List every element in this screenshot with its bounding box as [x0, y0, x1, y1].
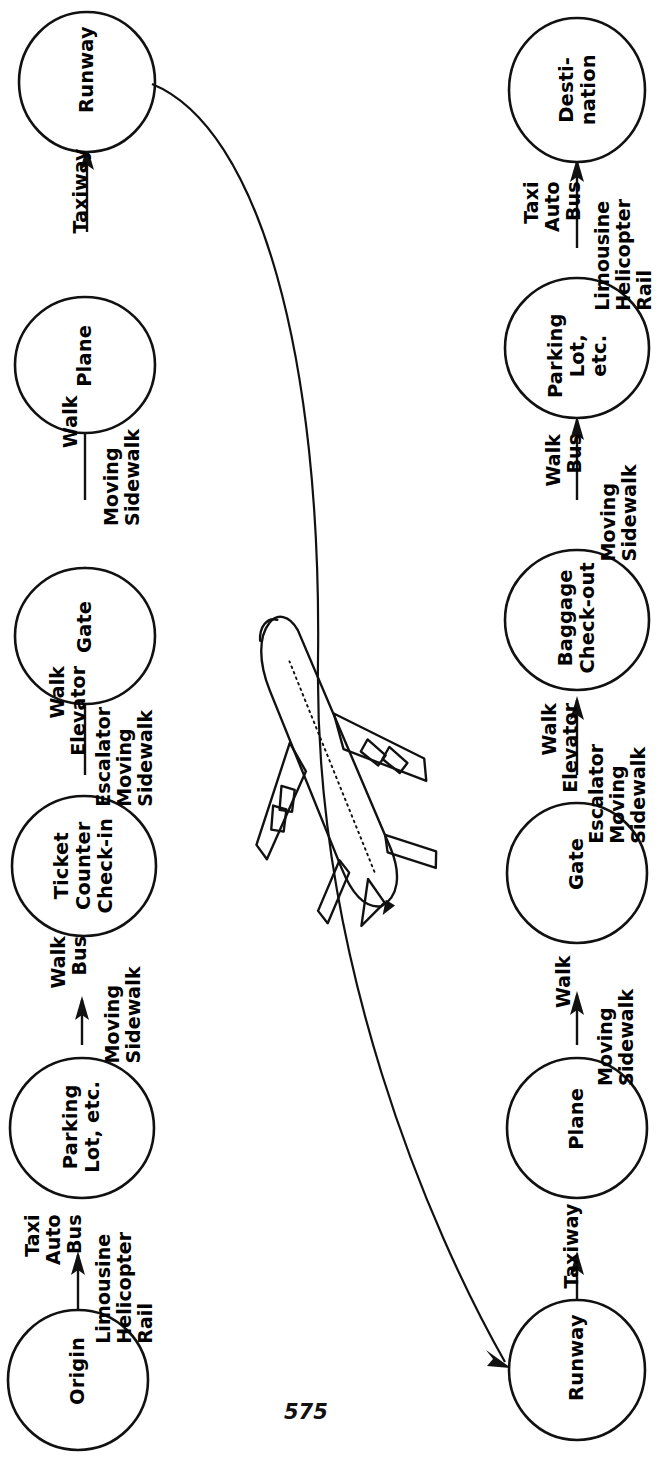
- edge-label-gate-plane-b: Moving Sidewalk: [101, 406, 143, 526]
- edge-label-gate-baggage-a: Walk Elevator: [539, 703, 581, 823]
- node-label-origin: Origin: [67, 1331, 89, 1411]
- edge-label-baggage-parking-b: Moving Sidewalk: [598, 436, 640, 561]
- node-label-baggage-checkout: Baggage Check-out: [555, 553, 599, 683]
- node-label-parking-lot-dep: Parking Lot, etc.: [60, 1062, 104, 1192]
- flight-curve-path: [152, 84, 505, 1362]
- edge-label-parking-ticket-b: Moving Sidewalk: [102, 938, 144, 1063]
- page-number: 575: [284, 1400, 328, 1424]
- edge-label-gate-baggage-b: Escalator Moving Sidewalk: [586, 719, 649, 844]
- edge-label-taxiway-arr: Taxiway: [561, 1203, 582, 1313]
- edge-label-origin-parking-a: Taxi Auto Bus: [22, 1214, 85, 1324]
- airplane-illustration: [180, 586, 473, 951]
- node-label-plane-arr: Plane: [566, 1079, 588, 1159]
- edge-label-taxiway-dep: Taxiway: [70, 148, 91, 258]
- edge-label-origin-parking-b: Limousine Helicopter Rail: [93, 1209, 156, 1344]
- edge-label-ticket-gate-a: Walk Elevator: [47, 666, 89, 786]
- edge-label-parking-destination-b: Limousine Helicopter Rail: [592, 176, 655, 311]
- node-label-ticket-counter: Ticket Counter Check-in: [51, 801, 116, 931]
- edge-label-plane-gate-b: Moving Sidewalk: [595, 966, 637, 1086]
- edge-label-plane-gate-a: Walk: [553, 955, 574, 1065]
- node-label-plane-dep: Plane: [74, 316, 96, 396]
- edge-label-parking-destination-a: Taxi Auto Bus: [521, 181, 584, 291]
- node-label-gate-dep: Gate: [74, 587, 96, 667]
- node-label-destination: Desti- nation: [556, 46, 600, 134]
- arrowhead-runway-arr: [486, 1350, 511, 1368]
- figure-canvas: Runway Plane Gate Ticket Counter Check-i…: [0, 0, 668, 1483]
- node-label-parking-lot-arr: Parking Lot, etc.: [545, 308, 610, 403]
- edge-label-gate-plane-a: Walk: [60, 395, 81, 505]
- edge-label-parking-ticket-a: Walk Bus: [48, 936, 90, 1056]
- edge-label-ticket-gate-b: Escalator Moving Sidewalk: [93, 682, 156, 807]
- node-label-runway-arr: Runway: [566, 1321, 588, 1401]
- edge-label-baggage-parking-a: Walk Bus: [543, 434, 585, 554]
- node-label-runway-dep: Runway: [76, 33, 98, 113]
